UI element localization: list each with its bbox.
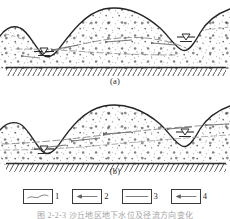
panel-a-sand-fill — [0, 0, 230, 75]
legend-swatch-seepage-arrow — [171, 189, 201, 204]
figure-caption: 图 2-2-3 沙丘地区地下水位及径流方向变化 — [0, 209, 230, 219]
legend-item-2: 2 — [72, 189, 108, 204]
panel-a-bedrock-hatch — [6, 68, 226, 76]
legend-swatch-curved-line — [23, 189, 53, 204]
panel-a-water-level-marker-right — [177, 34, 195, 42]
legend-item-1: 1 — [23, 189, 59, 204]
legend-item-4: 4 — [171, 189, 207, 204]
legend-swatch-flow-arrow — [72, 189, 102, 204]
panel-b-water-level-marker-right — [176, 129, 194, 137]
legend-number-4: 4 — [203, 192, 207, 201]
legend-number-2: 2 — [104, 192, 108, 201]
panel-a-group — [0, 0, 230, 76]
legend-number-3: 3 — [154, 192, 158, 201]
panel-b-group — [0, 100, 230, 172]
panel-b-label: (b) — [0, 166, 230, 176]
legend-number-1: 1 — [55, 192, 59, 201]
figure-root: (a) (b) 1 2 — [0, 0, 230, 219]
panel-a-label: (a) — [0, 76, 230, 86]
legend-item-3: 3 — [122, 189, 158, 204]
legend: 1 2 3 — [0, 186, 230, 206]
panel-b-sand-fill — [0, 100, 230, 170]
legend-swatch-water-table-line — [122, 189, 152, 204]
